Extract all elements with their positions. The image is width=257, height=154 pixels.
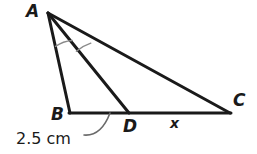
vertex-label-c: C <box>233 92 245 109</box>
vertex-label-a: A <box>26 3 39 20</box>
vertex-label-b: B <box>51 106 64 123</box>
length-label-bd: 2.5 cm <box>16 131 71 147</box>
angle-arc-bad <box>56 41 73 47</box>
segment-ac <box>48 13 230 113</box>
angle-arc-dac <box>76 43 90 51</box>
geometry-figure: A B C D x 2.5 cm <box>0 0 257 154</box>
leader-line-bd <box>84 113 110 135</box>
length-label-dc: x <box>170 116 179 130</box>
vertex-label-d: D <box>123 118 137 135</box>
